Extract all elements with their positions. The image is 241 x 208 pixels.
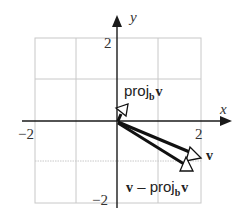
y-tick-2: 2 — [104, 35, 112, 51]
vector-projection-diagram: y x 2 −2 −2 2 projbv v v – projbv — [0, 0, 241, 208]
y-tick-minus2: −2 — [92, 192, 108, 208]
x-tick-minus2: −2 — [18, 126, 34, 142]
vector-v-shaft — [118, 122, 192, 153]
y-axis-arrow-icon — [112, 15, 122, 27]
vector-v-arrowhead-icon — [186, 147, 201, 161]
vector-proj-shaft — [118, 114, 121, 121]
vector-proj-arrowhead-icon — [116, 104, 128, 116]
label-v-minus-proj-b-v: v – projbv — [126, 178, 188, 198]
label-v: v — [206, 148, 213, 163]
vector-proj — [116, 104, 128, 121]
vector-v — [118, 122, 201, 161]
x-axis-arrow-icon — [220, 116, 232, 126]
y-axis-label: y — [128, 9, 137, 25]
vector-v-minus-proj-shaft — [118, 123, 184, 164]
label-proj-b-v: projbv — [124, 82, 163, 102]
vector-v-minus-proj — [118, 123, 193, 171]
x-tick-2: 2 — [195, 126, 203, 142]
x-axis-label: x — [219, 101, 227, 117]
